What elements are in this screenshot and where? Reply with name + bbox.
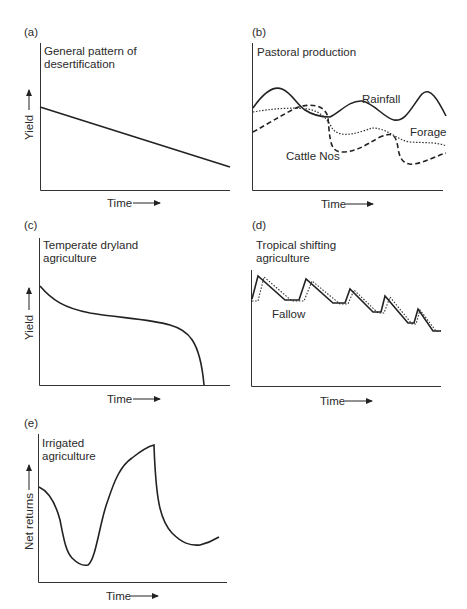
panel-c-title-line1: Temperate dryland xyxy=(43,239,138,251)
svg-text:Time: Time xyxy=(106,590,131,602)
panel-e-line xyxy=(39,445,219,565)
fallow-label: Fallow xyxy=(272,308,306,320)
svg-text:Yield: Yield xyxy=(23,115,35,140)
panel-d-axes xyxy=(252,270,442,387)
panel-b: (b) Pastoral production Rainfall Forage … xyxy=(252,26,446,210)
panel-label-b: (b) xyxy=(252,26,266,38)
panel-label-c: (c) xyxy=(24,219,38,231)
panel-a: (a) General pattern of desertification Y… xyxy=(23,26,230,209)
panel-e-ylabel: Net returns xyxy=(23,465,35,550)
svg-text:Net returns: Net returns xyxy=(23,493,35,550)
panel-label-e: (e) xyxy=(24,417,38,429)
panel-d: (d) Tropical shifting agriculture Fallow… xyxy=(252,219,442,407)
panel-e-xlabel: Time xyxy=(106,590,158,602)
forage-label: Forage xyxy=(410,126,446,138)
svg-text:Time: Time xyxy=(320,395,345,407)
panel-a-title-line2: desertification xyxy=(44,58,115,70)
panel-b-title-line1: Pastoral production xyxy=(257,46,356,58)
panel-d-title-line2: agriculture xyxy=(256,252,310,264)
panel-c-title-line2: agriculture xyxy=(43,252,97,264)
panel-a-line xyxy=(40,107,230,167)
panel-a-title-line1: General pattern of xyxy=(44,45,138,57)
panel-label-a: (a) xyxy=(24,26,38,38)
panel-e: (e) Irrigated agriculture Net returns Ti… xyxy=(23,417,227,602)
panel-e-title-line2: agriculture xyxy=(42,450,96,462)
rainfall-label: Rainfall xyxy=(362,93,400,105)
panel-d-title-line1: Tropical shifting xyxy=(256,239,336,251)
panel-b-xlabel: Time xyxy=(321,198,373,210)
svg-text:Time: Time xyxy=(107,393,132,405)
panel-a-ylabel: Yield xyxy=(23,90,35,140)
panel-c-line xyxy=(40,286,204,385)
svg-text:Time: Time xyxy=(321,198,346,210)
svg-text:Time: Time xyxy=(107,197,132,209)
panel-d-xlabel: Time xyxy=(320,395,372,407)
figure: (a) General pattern of desertification Y… xyxy=(0,0,467,609)
svg-text:Yield: Yield xyxy=(23,315,35,340)
panel-a-xlabel: Time xyxy=(107,197,160,209)
cattle-label: Cattle Nos xyxy=(286,150,340,162)
panel-c-ylabel: Yield xyxy=(23,288,35,340)
panel-e-title-line1: Irrigated xyxy=(42,437,84,449)
panel-c-xlabel: Time xyxy=(107,393,160,405)
panel-c: (c) Temperate dryland agriculture Yield … xyxy=(23,219,230,405)
panel-label-d: (d) xyxy=(252,219,266,231)
